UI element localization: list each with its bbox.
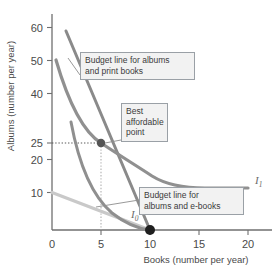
x-tick-label-5: 5 bbox=[98, 238, 104, 250]
curve-label-i0-group: I0 bbox=[130, 208, 139, 223]
callout-budget-line-ebooks: Budget line for albums and e-books bbox=[139, 187, 244, 215]
y-tick-label-40: 40 bbox=[31, 88, 43, 100]
callout-best-affordable-point: Best affordable point bbox=[121, 103, 168, 142]
best-affordable-point-marker bbox=[97, 139, 105, 147]
y-tick-label-25: 25 bbox=[31, 137, 43, 149]
x-tick-label-10: 10 bbox=[144, 238, 156, 250]
y-tick-label-10: 10 bbox=[31, 187, 43, 199]
curve-label-i1-subscript: 1 bbox=[259, 180, 263, 189]
x-tick-label-20: 20 bbox=[242, 238, 254, 250]
curve-label-i1-group: I1 bbox=[254, 174, 262, 189]
x-tick-label-15: 15 bbox=[193, 238, 205, 250]
guide-lines-group bbox=[52, 143, 101, 230]
callout-budget-line-print-books: Budget line for albums and print books bbox=[80, 52, 195, 80]
x-tick-label-0: 0 bbox=[49, 238, 55, 250]
y-tick-label-20: 20 bbox=[31, 154, 43, 166]
x-axis-title: Books (number per year) bbox=[143, 254, 248, 265]
curve-label-i0-subscript: 0 bbox=[135, 214, 139, 223]
y-axis-title: Albums (number per year) bbox=[5, 41, 16, 151]
indifference-curve-figure: 60 50 40 25 20 10 0 5 10 15 20 Books (nu… bbox=[0, 0, 278, 270]
ebooks-tangency-point-marker bbox=[145, 225, 155, 235]
y-tick-label-60: 60 bbox=[31, 22, 43, 34]
y-tick-label-50: 50 bbox=[31, 55, 43, 67]
